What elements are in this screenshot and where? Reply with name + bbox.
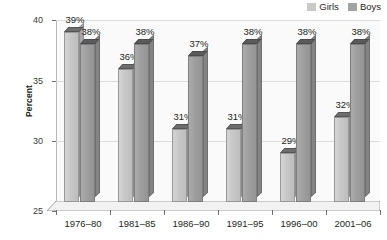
x-axis-tick-label: 1986–90	[173, 218, 210, 229]
bar-boys[interactable]	[134, 44, 149, 202]
y-axis-tick-label: 40	[23, 15, 43, 25]
y-axis-tick-label: 25	[23, 206, 43, 216]
chart-legend: Girls Boys	[307, 1, 381, 12]
bar-value-label: 38%	[351, 26, 370, 37]
x-axis-tick-label: 1981–85	[119, 218, 156, 229]
legend-label-boys: Boys	[360, 1, 381, 12]
x-axis-tick-mark	[380, 210, 381, 215]
bar-front-face	[188, 56, 203, 202]
bar-front-face	[118, 69, 133, 202]
bar-girls[interactable]	[172, 129, 187, 202]
bar-boys[interactable]	[80, 44, 95, 202]
x-axis-tick-mark	[56, 210, 57, 215]
bar-front-face	[64, 32, 79, 202]
bar-girls[interactable]	[118, 69, 133, 202]
bar-girls[interactable]	[280, 153, 295, 202]
bar-front-face	[134, 44, 149, 202]
x-axis-tick-mark	[218, 210, 219, 215]
bar-front-face	[296, 44, 311, 202]
bar-front-face	[280, 153, 295, 202]
x-axis-tick-label: 1976–80	[65, 218, 102, 229]
bar-group: 36%38%	[110, 20, 164, 202]
x-axis-tick-mark	[164, 210, 165, 215]
bar-boys[interactable]	[350, 44, 365, 202]
legend-swatch-girls-icon	[307, 3, 316, 11]
x-axis-tick-label: 1996–00	[281, 218, 318, 229]
legend-label-girls: Girls	[319, 1, 339, 12]
y-axis-tick-label: 35	[23, 76, 43, 86]
bar-value-label: 38%	[81, 26, 100, 37]
legend-swatch-boys-icon	[348, 3, 357, 11]
bar-front-face	[334, 117, 349, 202]
y-axis-tick-label: 30	[23, 136, 43, 146]
x-axis-tick-mark	[272, 210, 273, 215]
bar-group: 39%38%	[56, 20, 110, 202]
bar-side-face	[203, 47, 208, 197]
bar-girls[interactable]	[334, 117, 349, 202]
bar-boys[interactable]	[188, 56, 203, 202]
bar-groups: 39%38%36%38%31%37%31%38%29%38%32%38%	[56, 20, 380, 202]
bar-front-face	[226, 129, 241, 202]
bar-girls[interactable]	[64, 32, 79, 202]
bar-value-label: 39%	[65, 14, 84, 25]
bar-value-label: 38%	[243, 26, 262, 37]
bar-side-face	[149, 35, 154, 197]
legend-item-boys[interactable]: Boys	[348, 1, 381, 12]
bar-girls[interactable]	[226, 129, 241, 202]
legend-item-girls[interactable]: Girls	[307, 1, 339, 12]
bar-group: 32%38%	[326, 20, 380, 202]
bar-side-face	[95, 35, 100, 197]
bar-value-label: 37%	[189, 38, 208, 49]
bar-group: 31%38%	[218, 20, 272, 202]
bar-front-face	[80, 44, 95, 202]
x-axis-tick-mark	[326, 210, 327, 215]
x-axis-tick-label: 2001–06	[335, 218, 372, 229]
bar-front-face	[172, 129, 187, 202]
bar-value-label: 38%	[297, 26, 316, 37]
plot-area: 25303540 39%38%36%38%31%37%31%38%29%38%3…	[47, 20, 380, 211]
floor-surface	[47, 201, 380, 211]
x-axis-tick-label: 1991–95	[227, 218, 264, 229]
x-axis-tick-mark	[110, 210, 111, 215]
chart-container: Girls Boys Percent 25303540 39%38%36%38%…	[0, 0, 387, 240]
bar-group: 31%37%	[164, 20, 218, 202]
bar-group: 29%38%	[272, 20, 326, 202]
x-axis-labels: 1976–801981–851986–901991–951996–002001–…	[47, 214, 380, 236]
bar-value-label: 38%	[135, 26, 154, 37]
bar-front-face	[242, 44, 257, 202]
bar-side-face	[257, 35, 262, 197]
bar-boys[interactable]	[242, 44, 257, 202]
bar-front-face	[350, 44, 365, 202]
bar-boys[interactable]	[296, 44, 311, 202]
bar-side-face	[311, 35, 316, 197]
bar-side-face	[365, 35, 370, 197]
